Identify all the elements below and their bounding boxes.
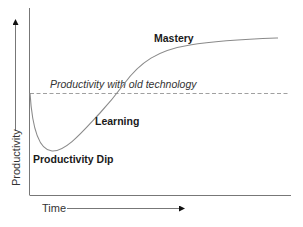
phase-label-dip: Productivity Dip [33, 153, 114, 165]
x-axis-label: Time [42, 202, 66, 214]
productivity-learning-curve-diagram: Productivity Time Productivity with old … [0, 0, 303, 227]
phase-label-learning: Learning [95, 115, 139, 127]
y-axis-label: Productivity [10, 129, 22, 186]
phase-label-mastery: Mastery [154, 32, 194, 44]
productivity-curve [30, 38, 278, 151]
